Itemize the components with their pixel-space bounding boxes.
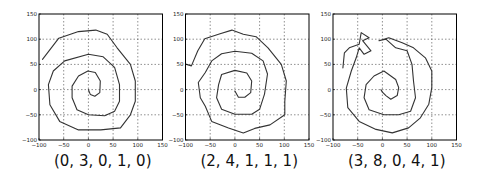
plot-frame bbox=[333, 14, 457, 140]
plot-panel-3: −100−50050100150−100−50050100150(3, 8, 0… bbox=[316, 11, 462, 170]
x-tick-label: 50 bbox=[256, 142, 263, 148]
x-tick-label: 0 bbox=[87, 142, 91, 148]
y-tick-label: 50 bbox=[324, 61, 331, 67]
figure-canvas: −100−50050100150−100−50050100150(0, 3, 0… bbox=[0, 0, 485, 174]
plot-frame bbox=[39, 14, 163, 140]
y-tick-label: 0 bbox=[180, 87, 184, 93]
y-tick-label: −50 bbox=[25, 112, 37, 118]
x-tick-label: 150 bbox=[304, 142, 315, 148]
y-tick-label: −100 bbox=[316, 137, 332, 143]
y-tick-label: 0 bbox=[34, 87, 38, 93]
axis-tick-labels: −100−50050100150−100−50050100150 bbox=[22, 11, 168, 148]
x-tick-label: 150 bbox=[157, 142, 168, 148]
plot-frame bbox=[186, 14, 310, 140]
y-tick-label: 100 bbox=[321, 36, 332, 42]
plot-panel-2: −100−50050100150−100−50050100150(2, 4, 1… bbox=[168, 11, 314, 170]
plot-panel-1: −100−50050100150−100−50050100150(0, 3, 0… bbox=[22, 11, 168, 170]
y-tick-label: 50 bbox=[30, 61, 37, 67]
x-tick-label: 50 bbox=[110, 142, 117, 148]
spiral-curve bbox=[343, 33, 432, 133]
x-tick-label: −50 bbox=[58, 142, 70, 148]
x-tick-label: 100 bbox=[133, 142, 144, 148]
y-tick-label: −50 bbox=[319, 112, 331, 118]
x-tick-label: 50 bbox=[404, 142, 411, 148]
x-tick-label: 150 bbox=[451, 142, 462, 148]
y-tick-label: 150 bbox=[27, 11, 38, 17]
y-tick-label: 100 bbox=[173, 36, 184, 42]
x-tick-label: −50 bbox=[352, 142, 364, 148]
y-tick-label: 150 bbox=[173, 11, 184, 17]
x-tick-label: −50 bbox=[204, 142, 216, 148]
y-tick-label: −50 bbox=[172, 112, 184, 118]
y-tick-label: 100 bbox=[27, 36, 38, 42]
y-tick-label: −100 bbox=[22, 137, 38, 143]
y-tick-label: 150 bbox=[321, 11, 332, 17]
axis-tick-labels: −100−50050100150−100−50050100150 bbox=[168, 11, 314, 148]
spiral-curve bbox=[43, 30, 136, 130]
x-tick-label: 100 bbox=[279, 142, 290, 148]
grid-lines bbox=[186, 14, 310, 140]
panel-caption: (2, 4, 1, 1, 1) bbox=[200, 152, 298, 170]
x-tick-label: 100 bbox=[427, 142, 438, 148]
x-tick-label: 0 bbox=[381, 142, 385, 148]
y-tick-label: −100 bbox=[168, 137, 184, 143]
grid-lines bbox=[333, 14, 457, 140]
panel-caption: (3, 8, 0, 4, 1) bbox=[348, 152, 446, 170]
axis-tick-labels: −100−50050100150−100−50050100150 bbox=[316, 11, 462, 148]
grid-lines bbox=[39, 14, 163, 140]
y-tick-label: 0 bbox=[328, 87, 332, 93]
y-tick-label: 50 bbox=[177, 61, 184, 67]
x-tick-label: 0 bbox=[233, 142, 237, 148]
spiral-curve bbox=[187, 30, 287, 133]
panel-caption: (0, 3, 0, 1, 0) bbox=[54, 152, 152, 170]
